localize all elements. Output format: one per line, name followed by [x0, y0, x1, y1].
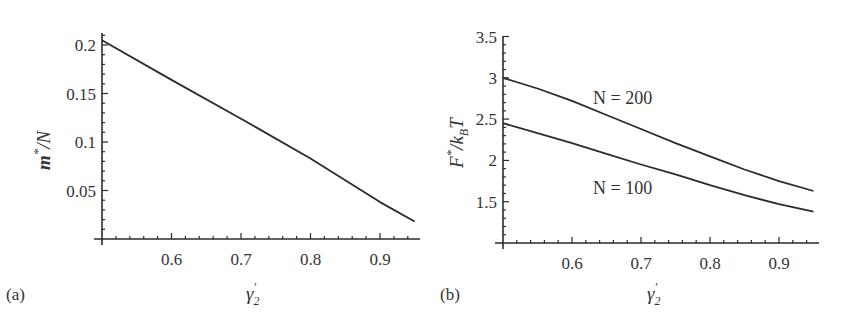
- y-tick-label: 0.15: [66, 85, 96, 104]
- chart-b-series: [503, 78, 814, 212]
- chart-panel-a: 0.60.70.80.90.050.10.150.2 (a) γ2′ m*/N: [6, 33, 420, 308]
- chart-a-ticks: 0.60.70.80.90.050.10.150.2: [66, 35, 408, 269]
- panel-label-b: (b): [440, 285, 460, 304]
- chart-a-y-axis-title: m*/N: [30, 129, 54, 170]
- chart-b-y-axis-title: F*/kBT: [443, 117, 471, 169]
- y-tick-label: 0.2: [75, 36, 96, 55]
- x-tick-label: 0.9: [369, 250, 390, 269]
- chart-b-ticks: 0.60.70.80.91.522.533.5: [476, 28, 807, 274]
- chart-a-x-axis-title: γ2′: [246, 280, 260, 308]
- y-tick-label: 1.5: [476, 193, 497, 212]
- y-tick-label: 2: [489, 151, 498, 170]
- chart-a-axes: [94, 33, 420, 245]
- y-tick-label: 0.1: [75, 133, 96, 152]
- chart-b-x-axis-title: γ2′: [647, 280, 661, 308]
- figure: 0.60.70.80.90.050.10.150.2 (a) γ2′ m*/N …: [0, 0, 845, 318]
- series-line-n-200: [503, 78, 814, 191]
- x-tick-label: 0.7: [230, 250, 252, 269]
- x-tick-label: 0.8: [699, 254, 720, 273]
- chart-panel-b: 0.60.70.80.91.522.533.5 (b) γ2′ F*/kBT N…: [440, 28, 819, 309]
- chart-b-axes: [495, 36, 819, 249]
- x-tick-label: 0.6: [161, 250, 182, 269]
- y-tick-label: 3: [489, 69, 498, 88]
- series-line-m-n: [102, 40, 415, 221]
- chart-a-series: [102, 40, 415, 221]
- panel-label-a: (a): [6, 285, 25, 304]
- y-tick-label: 0.05: [66, 182, 96, 201]
- annotation-n100: N = 100: [593, 178, 652, 198]
- x-tick-label: 0.8: [300, 250, 321, 269]
- x-tick-label: 0.7: [630, 254, 652, 273]
- x-tick-label: 0.6: [561, 254, 582, 273]
- annotation-n200: N = 200: [593, 88, 652, 108]
- y-tick-label: 2.5: [476, 110, 497, 129]
- x-tick-label: 0.9: [768, 254, 789, 273]
- y-tick-label: 3.5: [476, 28, 497, 47]
